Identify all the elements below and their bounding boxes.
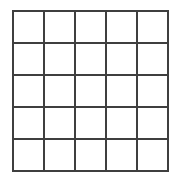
grid-cell[interactable] bbox=[44, 139, 75, 171]
grid-cell[interactable] bbox=[44, 75, 75, 107]
grid-cell[interactable] bbox=[106, 107, 137, 139]
grid-cell[interactable] bbox=[106, 75, 137, 107]
grid-cell[interactable] bbox=[137, 139, 168, 171]
grid-cell[interactable] bbox=[106, 43, 137, 75]
grid-cell[interactable] bbox=[137, 75, 168, 107]
grid-cell[interactable] bbox=[75, 107, 106, 139]
grid-cell[interactable] bbox=[75, 11, 106, 43]
grid-cell[interactable] bbox=[44, 43, 75, 75]
grid-cell[interactable] bbox=[75, 75, 106, 107]
grid-cell[interactable] bbox=[13, 107, 44, 139]
grid-cell[interactable] bbox=[13, 139, 44, 171]
grid-cell[interactable] bbox=[106, 11, 137, 43]
grid-cell[interactable] bbox=[13, 11, 44, 43]
grid-cell[interactable] bbox=[137, 107, 168, 139]
grid-cell[interactable] bbox=[44, 107, 75, 139]
grid-cells bbox=[13, 11, 168, 171]
grid-cell[interactable] bbox=[13, 43, 44, 75]
grid-cell[interactable] bbox=[75, 139, 106, 171]
grid-figure bbox=[0, 0, 180, 183]
grid-cell[interactable] bbox=[75, 43, 106, 75]
grid-cell[interactable] bbox=[44, 11, 75, 43]
grid-cell[interactable] bbox=[13, 75, 44, 107]
grid-cell[interactable] bbox=[137, 43, 168, 75]
grid-cell[interactable] bbox=[137, 11, 168, 43]
grid-cell[interactable] bbox=[106, 139, 137, 171]
grid-canvas bbox=[0, 0, 180, 183]
